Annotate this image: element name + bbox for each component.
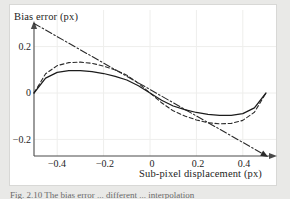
figure-container: Bias error (px) Sub-pixel displacement (…: [0, 0, 290, 199]
x-axis-title: Sub-pixel displacement (px): [139, 168, 262, 179]
x-tick-label-3: 0.2: [178, 158, 218, 169]
axis-lines: [31, 21, 277, 159]
arrowhead-linear-interpolation-bias: [260, 151, 268, 157]
y-tick-label-1: 0: [0, 87, 31, 98]
y-tick-label-2: −0.2: [0, 134, 31, 145]
gridlines: [34, 10, 276, 156]
figure-caption: Fig. 2.10 The bias error ... different .…: [10, 190, 282, 199]
y-tick-label-0: 0.2: [0, 41, 31, 52]
data-series-group: [34, 23, 268, 156]
y-axis-title: Bias error (px): [14, 11, 78, 22]
x-tick-label-1: −0.2: [85, 158, 125, 169]
x-tick-label-4: 0.4: [224, 158, 264, 169]
x-tick-label-0: −0.4: [37, 158, 77, 169]
x-tick-label-2: 0: [132, 158, 172, 169]
